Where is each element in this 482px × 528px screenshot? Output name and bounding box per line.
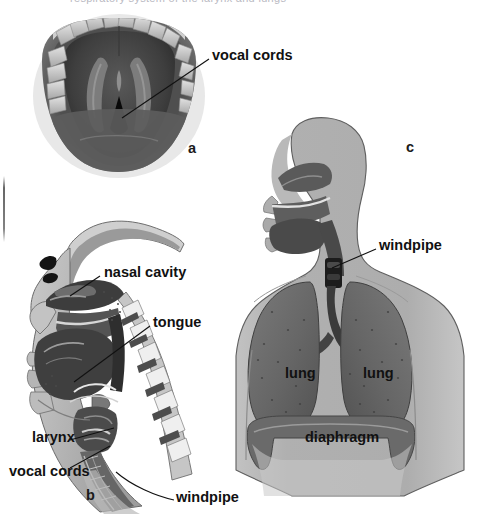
panel-letter-c: c — [406, 139, 414, 155]
leader-line-c-windpipe — [332, 249, 376, 268]
label-b-nasal-cavity: nasal cavity — [104, 265, 186, 280]
label-a-vocal-cords: vocal cords — [212, 48, 293, 63]
label-b-tongue: tongue — [153, 315, 201, 330]
label-c-windpipe: windpipe — [379, 238, 442, 253]
figure-artwork — [0, 0, 482, 528]
cut-off-caption-text: respiratory system of the larynx and lun… — [70, 0, 286, 4]
label-b-vocal-cords: vocal cords — [9, 464, 90, 479]
panel-letter-a: a — [188, 140, 196, 156]
label-b-windpipe: windpipe — [176, 490, 239, 505]
respiratory-system-figure: respiratory system of the larynx and lun… — [0, 0, 482, 528]
label-b-larynx: larynx — [32, 430, 75, 445]
panel-a-photograph — [30, 4, 210, 182]
label-c-diaphragm: diaphragm — [305, 430, 379, 445]
panel-letter-b: b — [86, 487, 95, 503]
leader-line-b-windpipe — [116, 472, 174, 500]
leader-line-b-tongue — [74, 326, 150, 382]
leader-line-a-vocal-cords — [122, 59, 209, 118]
leader-line-b-nasal-cavity — [70, 276, 100, 296]
label-c-lung-left: lung — [285, 366, 316, 381]
label-c-lung-right: lung — [363, 366, 394, 381]
page-edge-artifact — [3, 176, 5, 242]
leader-line-b-larynx — [70, 428, 114, 440]
